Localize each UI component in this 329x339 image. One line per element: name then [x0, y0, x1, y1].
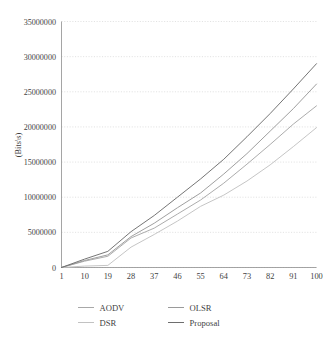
- x-tick-label: 1: [59, 272, 63, 281]
- x-tick-label: 91: [289, 272, 297, 281]
- y-tick-label: 10000000: [24, 193, 56, 202]
- y-tick-label: 35000000: [24, 18, 56, 27]
- x-tick-label: 46: [173, 272, 181, 281]
- x-tick-label: 28: [127, 272, 135, 281]
- x-tick-label: 37: [150, 272, 158, 281]
- legend-label: OLSR: [190, 303, 212, 313]
- y-tick-label: 20000000: [24, 123, 56, 132]
- chart-background: [0, 0, 329, 339]
- legend-label: Proposal: [190, 318, 221, 328]
- x-tick-label: 55: [196, 272, 204, 281]
- x-tick-label: 19: [104, 272, 112, 281]
- chart-figure: 0500000010000000150000002000000025000000…: [0, 0, 329, 339]
- x-tick-label: 10: [80, 272, 88, 281]
- y-tick-label: 5000000: [28, 228, 56, 237]
- legend-label: DSR: [100, 318, 117, 328]
- y-tick-label: 25000000: [24, 88, 56, 97]
- y-tick-label: 30000000: [24, 53, 56, 62]
- y-tick-label: 15000000: [24, 158, 56, 167]
- y-tick-label: 0: [52, 264, 56, 273]
- legend-label: AODV: [100, 303, 126, 313]
- x-tick-label: 100: [310, 272, 323, 281]
- x-tick-label: 82: [266, 272, 274, 281]
- y-axis-title: (Bits\s): [14, 133, 23, 158]
- line-chart: 0500000010000000150000002000000025000000…: [0, 0, 329, 339]
- x-tick-label: 64: [220, 272, 229, 281]
- x-tick-label: 73: [243, 272, 251, 281]
